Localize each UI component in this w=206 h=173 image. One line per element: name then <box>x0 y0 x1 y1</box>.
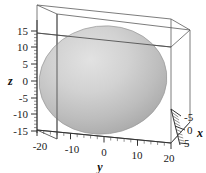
y-tick-label-20: 20 <box>164 152 176 164</box>
z-tick-label-neg5: -5 <box>19 92 29 104</box>
y-tick-label-10: 10 <box>132 149 144 161</box>
y-tick-label-neg10: -10 <box>65 143 80 155</box>
z-axis: 15 10 5 0 -5 -10 -15 z <box>7 20 37 137</box>
z-tick-label-15: 15 <box>17 25 29 37</box>
x-axis: -5 0 5 x <box>171 109 203 149</box>
ellipsoid-3d-plot: 15 10 5 0 -5 -10 -15 z <box>0 0 206 173</box>
z-axis-major-ticks <box>31 31 37 131</box>
z-tick-label-neg15: -15 <box>13 125 28 137</box>
x-tick-label-5: 5 <box>184 137 190 149</box>
y-axis: -20 -10 0 10 20 y <box>33 130 175 173</box>
ellipsoid-surface <box>33 19 173 142</box>
x-tick-label-0: 0 <box>187 124 193 136</box>
x-tick-label-neg5: -5 <box>184 111 194 123</box>
x-axis-title: x <box>196 126 203 140</box>
y-tick-label-0: 0 <box>101 146 107 158</box>
z-tick-label-neg10: -10 <box>13 108 28 120</box>
z-tick-label-0: 0 <box>23 75 29 87</box>
z-axis-title: z <box>7 74 13 88</box>
z-tick-label-5: 5 <box>23 58 29 70</box>
y-axis-title: y <box>95 160 103 173</box>
z-tick-label-10: 10 <box>17 41 29 53</box>
y-tick-label-neg20: -20 <box>33 140 48 152</box>
chart-canvas: 15 10 5 0 -5 -10 -15 z <box>0 0 206 173</box>
